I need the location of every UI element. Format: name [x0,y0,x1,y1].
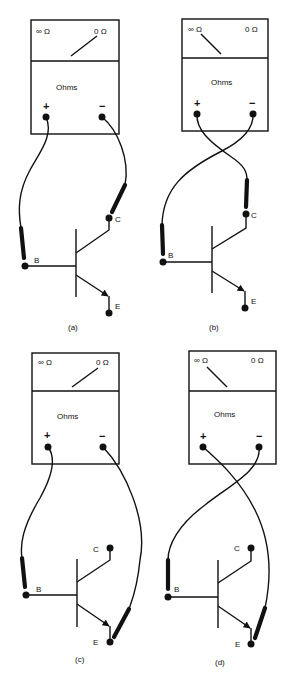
meter-label: Ohms [57,412,78,421]
collector-lead [212,214,246,249]
positive-probe [22,558,25,587]
negative-lead [103,447,142,609]
emitter-label: E [251,297,256,306]
panel-caption: (d) [215,658,225,667]
ohmmeter: ∞ Ω 0 Ω Ohms + − [32,353,119,464]
emitter-arrow [77,604,109,626]
negative-terminal-label: − [99,100,105,112]
scale-infinity-label: ∞ Ω [38,358,52,367]
emitter-arrow [218,606,250,628]
collector-label: C [115,215,121,224]
scale-zero-label: 0 Ω [245,25,258,34]
panel-caption: (b) [209,323,219,332]
npn-transistor: B C E [23,545,114,648]
scale-infinity-label: ∞ Ω [194,356,208,365]
base-label: B [174,585,179,594]
base-label: B [34,256,39,265]
base-terminal [23,592,30,599]
scale-zero-label: 0 Ω [251,356,264,365]
negative-terminal-label: − [249,97,255,109]
base-label: B [168,251,173,260]
scale-zero-label: 0 Ω [94,27,107,36]
collector-label: C [251,211,257,220]
positive-terminal-label: + [44,429,50,441]
scale-infinity-label: ∞ Ω [188,25,202,34]
ohmmeter: ∞ Ω 0 Ω Ohms + − [189,351,276,464]
emitter-arrow [212,271,244,291]
collector-terminal [248,545,255,552]
panel-caption: (c) [75,655,85,664]
meter-label: Ohms [211,78,232,87]
base-label: B [36,585,41,594]
base-terminal [160,259,167,266]
negative-terminal-label: − [99,430,105,442]
npn-transistor: B C E [165,544,255,649]
panel-d: ∞ Ω 0 Ω Ohms + − B C E (d) [165,351,277,667]
panel-b: ∞ Ω 0 Ω Ohms + − B C E (b) [160,19,269,332]
panel-caption: (a) [68,323,78,332]
emitter-label: E [93,638,98,647]
positive-terminal-label: + [43,100,49,112]
collector-label: C [93,545,99,554]
collector-terminal [106,215,113,222]
meter-label: Ohms [56,83,77,92]
scale-infinity-label: ∞ Ω [36,27,50,36]
base-terminal [165,594,172,601]
positive-lead [203,447,269,608]
emitter-label: E [115,302,120,311]
emitter-label: E [235,640,240,649]
negative-probe [114,609,129,637]
panel-a: ∞ Ω 0 Ω Ohms + − B C E (a) [19,20,126,332]
positive-terminal-label: + [194,97,200,109]
negative-probe [112,185,125,212]
emitter-terminal [106,310,113,317]
collector-lead [218,548,251,583]
emitter-terminal [242,305,249,312]
positive-terminal-label: + [200,430,206,442]
ohmmeter: ∞ Ω 0 Ω Ohms + − [31,20,119,134]
ohmmeter: ∞ Ω 0 Ω Ohms + − [182,19,268,131]
base-terminal [22,263,29,270]
npn-transistor: B C E [160,211,258,312]
emitter-arrow [76,275,108,296]
scale-zero-label: 0 Ω [96,358,109,367]
positive-probe [255,608,265,638]
collector-terminal [107,545,114,552]
negative-probe [162,225,163,254]
positive-probe [246,180,247,207]
emitter-terminal [107,639,114,646]
collector-lead [76,218,109,253]
npn-transistor: B C E [22,215,122,317]
meter-label: Ohms [214,410,235,419]
transistor-ohmmeter-diagram: ∞ Ω 0 Ω Ohms + − B C E (a) [0,0,301,677]
negative-terminal-label: − [256,430,262,442]
positive-probe [21,228,24,258]
panel-c: ∞ Ω 0 Ω Ohms + − B C E (c) [21,353,141,664]
collector-label: C [234,544,240,553]
emitter-terminal [248,641,255,648]
collector-terminal [243,211,250,218]
